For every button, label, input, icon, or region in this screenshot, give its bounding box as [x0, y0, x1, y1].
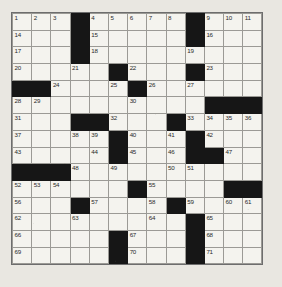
crossword-cell[interactable]	[204, 197, 223, 214]
crossword-cell[interactable]: 34	[204, 114, 223, 131]
crossword-cell[interactable]	[243, 47, 262, 64]
crossword-cell[interactable]	[243, 214, 262, 231]
crossword-cell[interactable]: 59	[185, 197, 204, 214]
crossword-cell[interactable]: 64	[147, 214, 166, 231]
crossword-cell[interactable]: 71	[204, 247, 223, 264]
crossword-cell[interactable]: 41	[166, 130, 185, 147]
crossword-cell[interactable]: 40	[128, 130, 147, 147]
crossword-cell[interactable]	[243, 64, 262, 81]
crossword-cell[interactable]: 42	[204, 130, 223, 147]
crossword-cell[interactable]: 1	[13, 14, 32, 31]
crossword-cell[interactable]	[70, 247, 89, 264]
crossword-cell[interactable]: 3	[51, 14, 70, 31]
crossword-cell[interactable]: 69	[13, 247, 32, 264]
crossword-cell[interactable]: 65	[204, 214, 223, 231]
crossword-cell[interactable]	[32, 214, 51, 231]
crossword-cell[interactable]	[108, 30, 127, 47]
crossword-cell[interactable]: 57	[89, 197, 108, 214]
crossword-cell[interactable]	[89, 180, 108, 197]
crossword-cell[interactable]	[108, 197, 127, 214]
crossword-cell[interactable]: 6	[128, 14, 147, 31]
crossword-cell[interactable]: 35	[224, 114, 243, 131]
crossword-cell[interactable]: 47	[224, 147, 243, 164]
crossword-cell[interactable]: 67	[128, 230, 147, 247]
crossword-cell[interactable]	[166, 97, 185, 114]
crossword-cell[interactable]	[51, 214, 70, 231]
crossword-cell[interactable]	[70, 97, 89, 114]
crossword-cell[interactable]	[128, 30, 147, 47]
crossword-cell[interactable]	[70, 230, 89, 247]
crossword-cell[interactable]: 32	[108, 114, 127, 131]
crossword-cell[interactable]: 9	[204, 14, 223, 31]
crossword-cell[interactable]	[32, 197, 51, 214]
crossword-cell[interactable]	[243, 230, 262, 247]
crossword-cell[interactable]	[51, 114, 70, 131]
crossword-cell[interactable]: 38	[70, 130, 89, 147]
crossword-cell[interactable]: 11	[243, 14, 262, 31]
crossword-cell[interactable]: 43	[13, 147, 32, 164]
crossword-cell[interactable]	[243, 164, 262, 181]
crossword-cell[interactable]	[147, 147, 166, 164]
crossword-cell[interactable]	[204, 180, 223, 197]
crossword-cell[interactable]: 52	[13, 180, 32, 197]
crossword-cell[interactable]	[243, 247, 262, 264]
crossword-cell[interactable]: 4	[89, 14, 108, 31]
crossword-cell[interactable]: 17	[13, 47, 32, 64]
crossword-cell[interactable]	[128, 47, 147, 64]
crossword-cell[interactable]	[89, 214, 108, 231]
crossword-cell[interactable]	[147, 230, 166, 247]
crossword-cell[interactable]	[32, 114, 51, 131]
crossword-cell[interactable]	[108, 180, 127, 197]
crossword-cell[interactable]: 33	[185, 114, 204, 131]
crossword-cell[interactable]: 2	[32, 14, 51, 31]
crossword-cell[interactable]	[224, 80, 243, 97]
crossword-cell[interactable]	[166, 80, 185, 97]
crossword-cell[interactable]: 16	[204, 30, 223, 47]
crossword-cell[interactable]: 23	[204, 64, 223, 81]
crossword-cell[interactable]: 70	[128, 247, 147, 264]
crossword-cell[interactable]	[51, 47, 70, 64]
crossword-cell[interactable]	[108, 214, 127, 231]
crossword-cell[interactable]: 56	[13, 197, 32, 214]
crossword-cell[interactable]	[147, 30, 166, 47]
crossword-cell[interactable]	[224, 30, 243, 47]
crossword-cell[interactable]	[224, 214, 243, 231]
crossword-cell[interactable]	[224, 130, 243, 147]
crossword-cell[interactable]	[32, 247, 51, 264]
crossword-cell[interactable]: 39	[89, 130, 108, 147]
crossword-cell[interactable]: 14	[13, 30, 32, 47]
crossword-cell[interactable]	[166, 180, 185, 197]
crossword-cell[interactable]: 26	[147, 80, 166, 97]
crossword-cell[interactable]	[243, 147, 262, 164]
crossword-cell[interactable]	[51, 197, 70, 214]
crossword-cell[interactable]	[224, 247, 243, 264]
crossword-cell[interactable]	[70, 147, 89, 164]
crossword-cell[interactable]: 19	[185, 47, 204, 64]
crossword-cell[interactable]: 31	[13, 114, 32, 131]
crossword-grid-container[interactable]: 1234567891011141516171819202122232425262…	[11, 12, 263, 265]
crossword-cell[interactable]: 21	[70, 64, 89, 81]
crossword-cell[interactable]	[51, 247, 70, 264]
crossword-cell[interactable]: 28	[13, 97, 32, 114]
crossword-cell[interactable]	[224, 47, 243, 64]
crossword-cell[interactable]: 29	[32, 97, 51, 114]
crossword-cell[interactable]	[32, 64, 51, 81]
crossword-cell[interactable]	[147, 97, 166, 114]
crossword-cell[interactable]	[108, 97, 127, 114]
crossword-cell[interactable]	[147, 164, 166, 181]
crossword-cell[interactable]: 66	[13, 230, 32, 247]
crossword-cell[interactable]	[108, 47, 127, 64]
crossword-cell[interactable]	[243, 80, 262, 97]
crossword-cell[interactable]	[147, 114, 166, 131]
crossword-cell[interactable]	[166, 47, 185, 64]
crossword-cell[interactable]	[128, 164, 147, 181]
crossword-cell[interactable]: 61	[243, 197, 262, 214]
crossword-cell[interactable]	[147, 130, 166, 147]
crossword-cell[interactable]	[147, 64, 166, 81]
crossword-cell[interactable]	[185, 97, 204, 114]
crossword-cell[interactable]	[89, 80, 108, 97]
crossword-cell[interactable]	[51, 30, 70, 47]
crossword-cell[interactable]	[128, 197, 147, 214]
crossword-cell[interactable]	[166, 230, 185, 247]
crossword-cell[interactable]: 37	[13, 130, 32, 147]
